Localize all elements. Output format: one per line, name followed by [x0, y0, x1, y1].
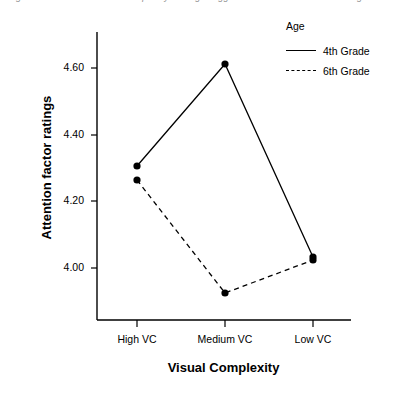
- data-point: [221, 289, 228, 296]
- line-chart: Figure. Interaction of visual complexity…: [0, 0, 394, 393]
- data-point: [133, 176, 140, 183]
- x-axis-title: Visual Complexity: [97, 360, 350, 375]
- legend-item-6th-grade[interactable]: 6th Grade: [286, 62, 370, 79]
- y-axis-title: Attention factor ratings: [39, 48, 54, 288]
- legend-label: 4th Grade: [323, 45, 370, 57]
- legend-title: Age: [286, 20, 370, 32]
- legend-line-solid-icon: [286, 46, 316, 56]
- data-point: [309, 256, 316, 263]
- legend-label: 6th Grade: [323, 65, 370, 77]
- legend-line-dashed-icon: [286, 66, 316, 76]
- x-tick-label-low-vc: Low VC: [268, 333, 358, 345]
- x-tick-label-high-vc: High VC: [92, 333, 182, 345]
- data-point: [221, 60, 228, 67]
- data-point: [133, 162, 140, 169]
- series-line-4th-grade: [137, 64, 313, 257]
- x-tick-label-medium-vc: Medium VC: [180, 333, 270, 345]
- series-line-6th-grade: [137, 180, 313, 293]
- legend-item-4th-grade[interactable]: 4th Grade: [286, 42, 370, 59]
- legend: Age 4th Grade 6th Grade: [286, 20, 370, 82]
